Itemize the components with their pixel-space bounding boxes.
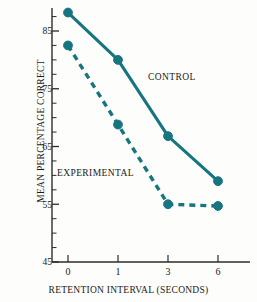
- data-point: [164, 132, 173, 141]
- x-axis-title: RETENTION INTERVAL (SECONDS): [0, 285, 257, 295]
- series-line-experimental: [68, 45, 218, 206]
- data-point: [114, 55, 123, 64]
- series-line-control: [68, 13, 218, 182]
- data-point: [214, 177, 223, 186]
- data-point: [164, 200, 173, 209]
- axis-lines: [52, 8, 250, 262]
- axis-ticks: [52, 17, 218, 262]
- data-point: [214, 202, 223, 211]
- series-label-experimental: EXPERIMENTAL: [57, 168, 134, 178]
- plot-area: [0, 0, 257, 302]
- data-point: [64, 41, 73, 50]
- chart-figure: MEAN PERCENTAGE CORRECT 85 75 65 55 45 0…: [0, 0, 257, 302]
- series-label-control: CONTROL: [148, 72, 196, 82]
- data-point: [114, 120, 123, 129]
- series-markers: [64, 8, 223, 210]
- data-point: [64, 8, 73, 17]
